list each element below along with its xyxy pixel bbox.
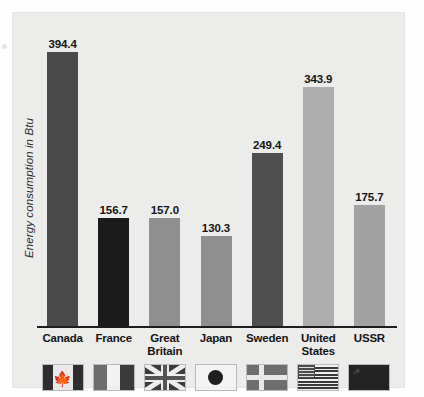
category-label-line: United xyxy=(293,332,344,345)
category-label-line: France xyxy=(88,332,139,345)
flag-great-britain xyxy=(144,364,186,391)
category-label: Japan xyxy=(190,332,241,345)
bar-ussr xyxy=(354,205,385,328)
category-label: Canada xyxy=(37,332,88,345)
flag-cell xyxy=(190,364,241,391)
y-axis-title: Energy consumption in Btu xyxy=(23,88,35,288)
category-label-line: States xyxy=(293,345,344,358)
scan-artifact-speck xyxy=(2,44,7,49)
flag-cell xyxy=(139,364,190,391)
bar-group: 175.7 xyxy=(354,26,385,327)
bar-great-britain xyxy=(149,218,180,327)
flag-japan xyxy=(195,364,237,391)
flag-cell xyxy=(293,364,344,391)
bar-value-label: 249.4 xyxy=(253,139,281,151)
category-label: Sweden xyxy=(242,332,293,345)
flag-france xyxy=(93,364,135,391)
category-label-line: Great xyxy=(139,332,190,345)
flag-ussr: ☭ xyxy=(348,364,390,391)
chart-panel: Energy consumption in Btu 394.4156.7157.… xyxy=(12,12,405,388)
bar-group: 157.0 xyxy=(149,26,180,327)
flag-cell: ☭ xyxy=(344,364,395,391)
bar-value-label: 343.9 xyxy=(304,73,332,85)
bar-france xyxy=(98,218,129,327)
flag-canada: 🍁 xyxy=(42,364,84,391)
bar-value-label: 175.7 xyxy=(355,191,383,203)
flag-cell xyxy=(242,364,293,391)
category-label-line: Canada xyxy=(37,332,88,345)
bar-japan xyxy=(201,236,232,327)
category-label: France xyxy=(88,332,139,345)
bar-united-states xyxy=(303,87,334,327)
bar-group: 156.7 xyxy=(98,26,129,327)
flag-row: 🍁☭ xyxy=(37,364,395,394)
bar-group: 130.3 xyxy=(201,26,232,327)
category-label-line: Britain xyxy=(139,345,190,358)
category-label: USSR xyxy=(344,332,395,345)
category-label-line: Sweden xyxy=(242,332,293,345)
bar-value-label: 157.0 xyxy=(151,204,179,216)
bar-sweden xyxy=(252,153,283,327)
bar-value-label: 394.4 xyxy=(48,38,76,50)
plot-area: 394.4156.7157.0130.3249.4343.9175.7 xyxy=(37,26,395,327)
bar-canada xyxy=(47,52,78,327)
bar-value-label: 156.7 xyxy=(100,204,128,216)
category-label-line: Japan xyxy=(190,332,241,345)
category-label: GreatBritain xyxy=(139,332,190,357)
bar-value-label: 130.3 xyxy=(202,222,230,234)
flag-cell: 🍁 xyxy=(37,364,88,391)
category-label-line: USSR xyxy=(344,332,395,345)
x-axis-line xyxy=(37,326,397,328)
chart-page: Energy consumption in Btu 394.4156.7157.… xyxy=(0,0,424,397)
flag-united-states xyxy=(297,364,339,391)
category-label: UnitedStates xyxy=(293,332,344,357)
flag-cell xyxy=(88,364,139,391)
bar-group: 343.9 xyxy=(303,26,334,327)
bar-group: 394.4 xyxy=(47,26,78,327)
bar-group: 249.4 xyxy=(252,26,283,327)
flag-sweden xyxy=(246,364,288,391)
